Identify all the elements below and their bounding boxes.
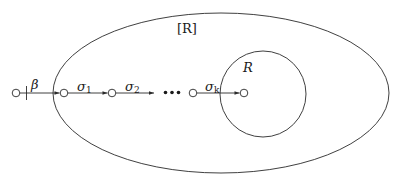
edge-beta-label: β: [31, 78, 39, 91]
sigma-1-base: σ: [77, 79, 86, 94]
node-k: [189, 89, 197, 97]
sigma-k-base: σ: [205, 79, 214, 94]
sigma-2-base: σ: [125, 79, 134, 94]
inner-region-circle: [220, 51, 306, 137]
edge-sigma-k-label: σk: [205, 80, 219, 95]
sigma-2-sub: 2: [134, 85, 140, 95]
inner-region-label: R: [243, 61, 253, 74]
node-target: [240, 89, 248, 97]
sigma-k-sub: k: [214, 85, 219, 95]
ellipsis-dots: [164, 91, 181, 95]
node-1: [60, 89, 68, 97]
edge-sigma-2-label: σ2: [125, 80, 140, 95]
node-start: [12, 89, 20, 97]
node-2: [108, 89, 116, 97]
transition-diagram: [0, 0, 398, 180]
edge-sigma-1-label: σ1: [77, 80, 92, 95]
sigma-1-sub: 1: [86, 85, 92, 95]
outer-region-label: [R]: [177, 22, 197, 35]
